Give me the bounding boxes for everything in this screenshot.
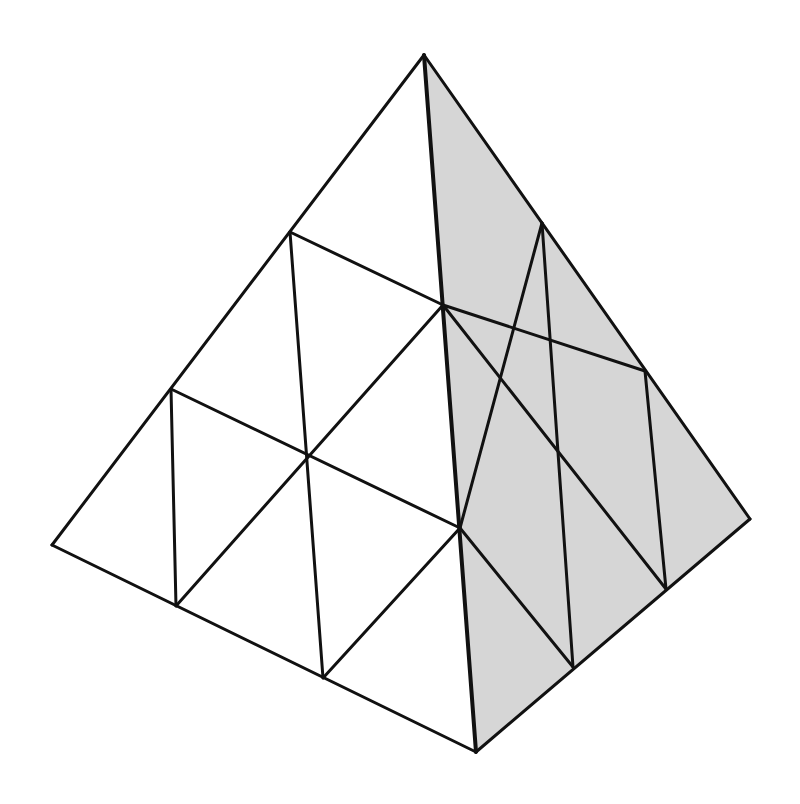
tetrahedron-figure: [0, 0, 800, 804]
tetrahedron-drawing: [0, 0, 800, 804]
right-face-shaded: [424, 55, 750, 752]
